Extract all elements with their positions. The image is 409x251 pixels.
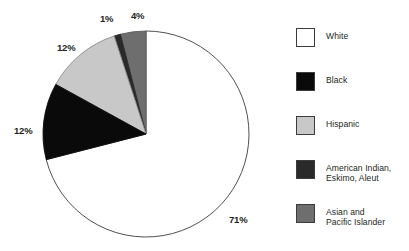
legend-item-asian: Asian and Pacific Islander	[296, 204, 385, 228]
pie-slices	[43, 31, 249, 237]
legend-item-hispanic: Hispanic	[296, 116, 359, 135]
legend-swatch-white	[296, 28, 315, 47]
legend-swatch-american-indian	[296, 160, 315, 179]
slice-label-hispanic: 12%	[57, 43, 75, 53]
legend-item-white: White	[296, 28, 348, 47]
legend-item-american-indian: American Indian, Eskimo, Aleut	[296, 160, 391, 184]
legend-swatch-black	[296, 72, 315, 91]
slice-label-american-indian: 1%	[100, 14, 113, 24]
slice-label-black: 12%	[14, 126, 32, 136]
legend-label-american-indian: American Indian, Eskimo, Aleut	[326, 160, 391, 184]
legend-label-hispanic: Hispanic	[326, 116, 359, 129]
legend-label-white: White	[326, 28, 348, 41]
legend-swatch-hispanic	[296, 116, 315, 135]
pie-plot-area: 71% 12% 12% 1% 4%	[0, 0, 285, 251]
pie-chart-figure: 71% 12% 12% 1% 4% White Black Hispanic A…	[0, 0, 409, 251]
slice-label-white: 71%	[229, 215, 247, 225]
legend-swatch-asian	[296, 204, 315, 223]
slice-label-asian: 4%	[131, 11, 144, 21]
legend-item-black: Black	[296, 72, 347, 91]
legend-label-asian: Asian and Pacific Islander	[326, 204, 385, 228]
legend-label-black: Black	[326, 72, 347, 85]
